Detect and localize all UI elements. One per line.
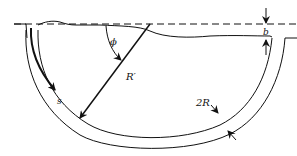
phi-label: ϕ [110, 36, 117, 47]
two-r-arrow-inner [228, 131, 236, 140]
left-rim [14, 24, 27, 38]
s-label: s [57, 96, 62, 106]
two-r-arrow-outer [211, 105, 218, 113]
s-path-arrow [31, 28, 55, 90]
b-label: b [263, 27, 269, 37]
tube-outer-wall [26, 30, 285, 148]
tube-inner-wall [38, 30, 272, 138]
r-prime-label: R′ [125, 71, 137, 82]
curved-tube-diagram: s R′ ϕ 2R b [0, 0, 297, 156]
two-r-label: 2R [195, 97, 210, 108]
